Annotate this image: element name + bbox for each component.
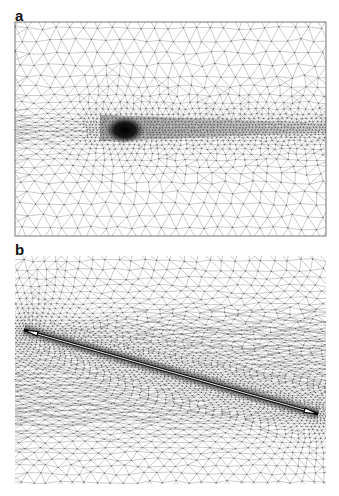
panel-a-mesh	[5, 14, 336, 241]
dense-core	[106, 117, 145, 144]
mesh-figure	[0, 0, 339, 496]
panel-b-mesh	[6, 248, 338, 492]
